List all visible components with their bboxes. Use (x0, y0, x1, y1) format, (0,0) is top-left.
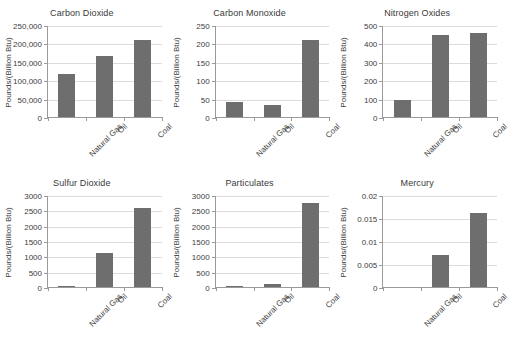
y-axis-tick-label: 250,000 (13, 22, 42, 31)
y-axis-tick-label: 200,000 (13, 40, 42, 49)
bar (58, 74, 75, 117)
y-axis-title: Pounds/(Billion Btu) (170, 26, 182, 118)
plot-area: 050100150200250 (215, 26, 330, 118)
x-axis-labels: Natural GasOilCoal (382, 118, 497, 164)
bar-slot (48, 196, 86, 287)
chart-title: Carbon Monoxide (168, 8, 332, 18)
bar-slot (254, 196, 292, 287)
bar (432, 255, 449, 287)
x-axis-labels: Natural GasOilCoal (47, 288, 162, 334)
plot-area: 050010001500200025003000 (215, 196, 330, 288)
chart-title: Mercury (335, 178, 499, 188)
y-axis-tick-label: 250 (196, 22, 209, 31)
y-axis-tick-label: 0.01 (362, 238, 378, 247)
bar (96, 253, 113, 287)
x-axis-labels: Natural GasOilCoal (215, 288, 330, 334)
y-axis-tick-label: 0 (205, 114, 209, 123)
y-axis-tick-label: 200 (364, 77, 377, 86)
x-axis-tick (497, 117, 498, 121)
chart-title: Particulates (168, 178, 332, 188)
y-axis-tick-label: 500 (29, 268, 42, 277)
x-axis-tick (329, 117, 330, 121)
y-axis-tick-label: 1000 (192, 253, 210, 262)
y-axis-title-text: Pounds/(Billion Btu) (4, 37, 13, 107)
bar (470, 213, 487, 287)
chart-title: Carbon Dioxide (0, 8, 164, 18)
bar-slot (291, 26, 329, 117)
y-axis-tick-label: 3000 (192, 192, 210, 201)
x-axis-tick (162, 117, 163, 121)
chart-panel: Carbon MonoxidePounds/(Billion Btu)05010… (168, 0, 336, 170)
bar (470, 33, 487, 117)
bar-slot (421, 26, 459, 117)
y-axis-tick-label: 150,000 (13, 58, 42, 67)
x-axis-tick (497, 287, 498, 291)
y-axis-tick-label: 150 (196, 58, 209, 67)
bar-slot (421, 196, 459, 287)
y-axis-title: Pounds/(Billion Btu) (2, 196, 14, 288)
bar-slot (254, 26, 292, 117)
y-axis-tick-label: 2500 (24, 207, 42, 216)
bar-series (48, 196, 162, 287)
x-axis-labels: Natural GasOilCoal (382, 288, 497, 334)
bar-slot (48, 26, 86, 117)
x-axis-tick (329, 287, 330, 291)
y-axis-tick-label: 50,000 (18, 95, 42, 104)
y-axis-title-text: Pounds/(Billion Btu) (4, 207, 13, 277)
bar (302, 40, 319, 117)
y-axis-title: Pounds/(Billion Btu) (170, 196, 182, 288)
x-axis-labels: Natural GasOilCoal (47, 118, 162, 164)
y-axis-title: Pounds/(Billion Btu) (337, 26, 349, 118)
y-axis-tick-label: 2000 (192, 222, 210, 231)
y-axis-tick-label: 1500 (24, 238, 42, 247)
bar (432, 35, 449, 117)
y-axis-tick-label: 0 (373, 114, 377, 123)
bar-series (216, 196, 330, 287)
y-axis-tick-label: 500 (364, 22, 377, 31)
bar (264, 105, 281, 117)
y-axis-tick-label: 3000 (24, 192, 42, 201)
bar-series (48, 26, 162, 117)
y-axis-tick-label: 0 (38, 114, 42, 123)
x-axis-tick-label: Coal (491, 122, 509, 140)
bar-slot (383, 26, 421, 117)
y-axis-tick-label: 0 (205, 284, 209, 293)
bar-series (383, 26, 497, 117)
y-axis-tick-label: 100,000 (13, 77, 42, 86)
chart-panel: MercuryPounds/(Billion Btu)00.0050.010.0… (335, 170, 503, 340)
y-axis-title-text: Pounds/(Billion Btu) (339, 207, 348, 277)
y-axis-title-text: Pounds/(Billion Btu) (339, 37, 348, 107)
y-axis-title-text: Pounds/(Billion Btu) (171, 37, 180, 107)
y-axis-tick-label: 0.015 (357, 215, 377, 224)
y-axis-tick-label: 0.005 (357, 261, 377, 270)
y-axis-tick-label: 2000 (24, 222, 42, 231)
y-axis-tick-label: 0 (38, 284, 42, 293)
bar-slot (86, 196, 124, 287)
plot-area: 00.0050.010.0150.02 (382, 196, 497, 288)
y-axis-title: Pounds/(Billion Btu) (337, 196, 349, 288)
bar (134, 208, 151, 287)
y-axis-tick-label: 0.02 (362, 192, 378, 201)
y-axis-tick-label: 50 (201, 95, 210, 104)
y-axis-tick-label: 1500 (192, 238, 210, 247)
y-axis-tick-label: 200 (196, 40, 209, 49)
x-axis-labels: Natural GasOilCoal (215, 118, 330, 164)
bar (58, 286, 75, 287)
y-axis-tick-label: 2500 (192, 207, 210, 216)
chart-panel: Sulfur DioxidePounds/(Billion Btu)050010… (0, 170, 168, 340)
y-axis-title-text: Pounds/(Billion Btu) (171, 207, 180, 277)
y-axis-tick-label: 300 (364, 58, 377, 67)
x-axis-tick (162, 287, 163, 291)
bar-slot (383, 196, 421, 287)
bar-slot (216, 26, 254, 117)
bar-slot (86, 26, 124, 117)
bar (134, 40, 151, 117)
chart-panel: ParticulatesPounds/(Billion Btu)05001000… (168, 170, 336, 340)
y-axis-tick-label: 500 (196, 268, 209, 277)
plot-area: 050,000100,000150,000200,000250,000 (47, 26, 162, 118)
chart-title: Sulfur Dioxide (0, 178, 164, 188)
bar (226, 286, 243, 287)
bar-slot (459, 196, 497, 287)
chart-panel: Carbon DioxidePounds/(Billion Btu)050,00… (0, 0, 168, 170)
